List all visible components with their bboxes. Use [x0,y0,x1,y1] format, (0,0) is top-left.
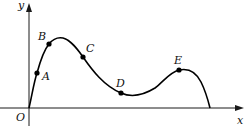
point-c-marker [80,54,85,59]
point-e-marker [176,67,181,72]
point-d-marker [118,90,123,95]
point-d-label: D [115,77,125,90]
point-a-marker [34,70,39,75]
point-b-marker [46,41,51,46]
point-e-label: E [173,54,182,67]
function-curve [29,38,210,108]
point-c-label: C [86,42,95,55]
y-axis-label: y [17,0,25,12]
x-axis-arrow-icon [235,105,244,111]
y-axis-arrow-icon [26,3,32,12]
x-axis [0,105,244,111]
function-graph: y x O A B C D E [0,0,246,129]
x-axis-label: x [237,114,244,127]
point-a-label: A [41,70,50,83]
point-b-label: B [37,30,46,43]
origin-label: O [16,111,25,124]
